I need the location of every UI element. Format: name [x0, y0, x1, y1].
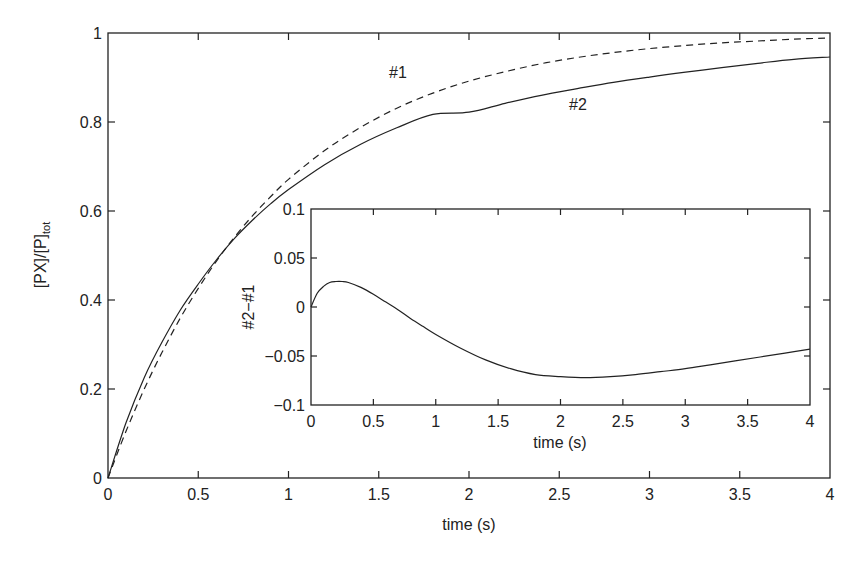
x-tick-label: 2.5 — [612, 413, 634, 430]
chart: 00.511.522.533.54 00.20.40.60.81 #1 #2 t… — [0, 0, 863, 563]
y-tick-label: 0.05 — [274, 250, 305, 267]
x-tick-label: 2.5 — [548, 486, 570, 503]
x-tick-label: 3.5 — [737, 413, 759, 430]
inset-x-axis-label: time (s) — [533, 434, 586, 451]
x-tick-label: 3 — [645, 486, 654, 503]
x-tick-label: 2 — [556, 413, 565, 430]
main-y-axis-label-main: [PX]/[P] — [32, 234, 49, 288]
x-tick-label: 1.5 — [487, 413, 509, 430]
x-tick-label: 0 — [104, 486, 113, 503]
y-tick-label: 0 — [296, 299, 305, 316]
x-tick-label: 1 — [284, 486, 293, 503]
main-x-axis-label: time (s) — [442, 516, 495, 533]
y-tick-label: 0.8 — [80, 114, 102, 131]
x-tick-label: 1 — [431, 413, 440, 430]
annotation-series-2: #2 — [569, 96, 587, 113]
x-tick-label: 0.5 — [187, 486, 209, 503]
main-y-axis-label: [PX]/[P]tot — [32, 222, 52, 288]
main-y-axis-label-subscript: tot — [40, 222, 52, 234]
annotation-series-1: #1 — [389, 64, 407, 81]
y-tick-label: 1 — [93, 25, 102, 42]
y-tick-label: 0.1 — [283, 201, 305, 218]
x-tick-label: 0 — [307, 413, 316, 430]
inset-plot: 00.511.522.533.54 −0.1−0.0500.050.1 time… — [240, 201, 815, 451]
y-tick-label: 0.4 — [80, 292, 102, 309]
inset-y-axis-label: #2−#1 — [240, 284, 257, 329]
inset-plot-background — [311, 209, 810, 405]
y-tick-label: −0.1 — [273, 397, 305, 414]
y-tick-label: 0 — [93, 470, 102, 487]
x-tick-label: 2 — [465, 486, 474, 503]
x-tick-label: 4 — [806, 413, 815, 430]
x-tick-label: 1.5 — [368, 486, 390, 503]
y-tick-label: −0.05 — [265, 348, 306, 365]
y-tick-label: 0.6 — [80, 203, 102, 220]
x-tick-label: 0.5 — [362, 413, 384, 430]
x-tick-label: 4 — [826, 486, 835, 503]
y-tick-label: 0.2 — [80, 381, 102, 398]
x-tick-label: 3.5 — [729, 486, 751, 503]
x-tick-label: 3 — [681, 413, 690, 430]
